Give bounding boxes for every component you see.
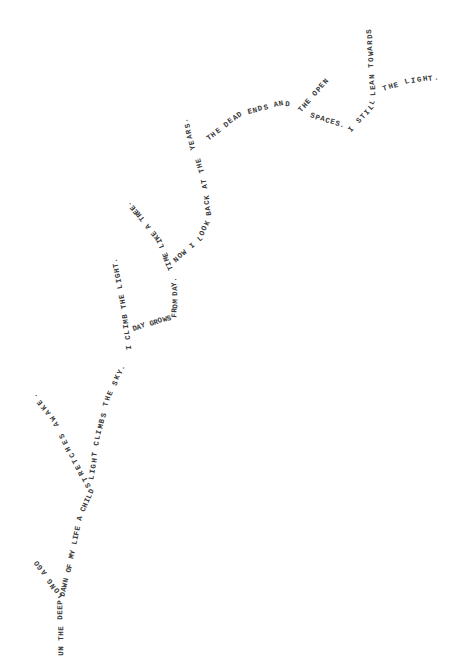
poem-char: T bbox=[382, 85, 388, 93]
poem-segment-trunk-9: THE LIGHT. bbox=[0, 0, 462, 663]
poem-char: G bbox=[416, 77, 421, 85]
branching-poem-canvas: UN THE DEEPLONG AGODAWN OF MY LIFE A CHI… bbox=[0, 0, 462, 663]
poem-char: I bbox=[411, 77, 416, 85]
poem-char: . bbox=[434, 74, 439, 82]
poem-char: T bbox=[428, 75, 433, 83]
